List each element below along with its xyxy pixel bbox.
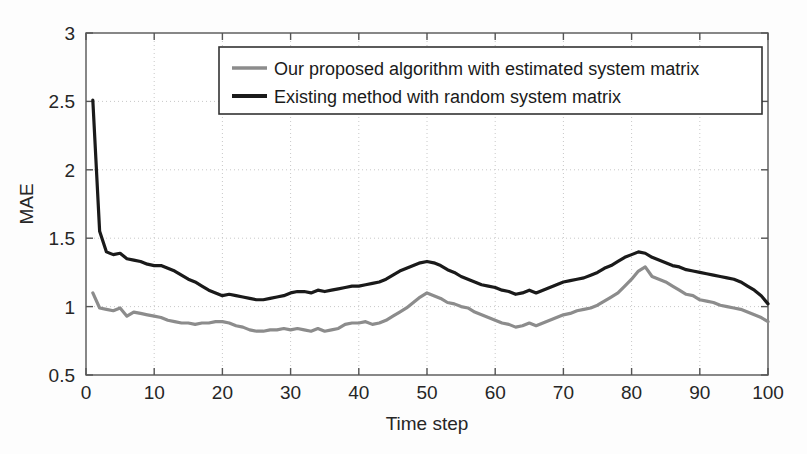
y-tick-label: 3 bbox=[64, 23, 75, 44]
x-tick-label: 80 bbox=[621, 382, 642, 403]
x-tick-label: 100 bbox=[752, 382, 784, 403]
y-tick-label: 1 bbox=[64, 297, 75, 318]
x-tick-label: 10 bbox=[144, 382, 165, 403]
x-tick-label: 0 bbox=[81, 382, 92, 403]
x-tick-label: 60 bbox=[485, 382, 506, 403]
legend-label-1: Our proposed algorithm with estimated sy… bbox=[274, 59, 699, 79]
y-tick-label: 1.5 bbox=[49, 228, 75, 249]
line-chart: 01020304050607080901000.511.522.53 Time … bbox=[0, 0, 807, 454]
y-tick-label: 2 bbox=[64, 160, 75, 181]
x-tick-label: 20 bbox=[212, 382, 233, 403]
x-axis-title: Time step bbox=[386, 413, 469, 434]
legend-label-2: Existing method with random system matri… bbox=[274, 87, 621, 107]
x-tick-label: 50 bbox=[416, 382, 437, 403]
y-tick-label: 2.5 bbox=[49, 91, 75, 112]
chart-figure: 01020304050607080901000.511.522.53 Time … bbox=[0, 0, 807, 454]
x-tick-label: 70 bbox=[553, 382, 574, 403]
x-tick-label: 40 bbox=[348, 382, 369, 403]
x-tick-label: 90 bbox=[689, 382, 710, 403]
chart-legend[interactable]: Our proposed algorithm with estimated sy… bbox=[219, 47, 762, 114]
x-tick-label: 30 bbox=[280, 382, 301, 403]
y-axis-title: MAE bbox=[16, 183, 37, 224]
y-tick-label: 0.5 bbox=[49, 365, 75, 386]
